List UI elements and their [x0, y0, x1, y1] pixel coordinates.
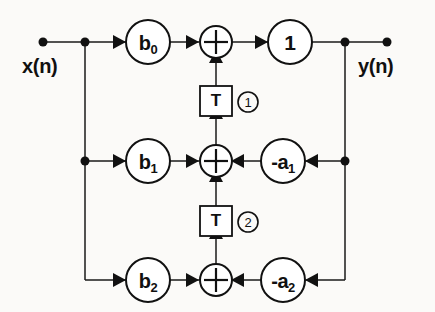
signal-flow-diagram: x(n) y(n) b0 b1 b2 -a1 -a2 1 T T 1 2 [0, 0, 435, 312]
output-junction-dot [341, 38, 350, 47]
arrow-into-b0 [113, 35, 126, 49]
coefficient-sub-b2: 2 [150, 280, 157, 295]
output-terminal-dot [383, 38, 392, 47]
delay-marker-label-2: 2 [244, 215, 251, 230]
coefficient-label-b2: b2 [139, 270, 157, 293]
coefficient-label-b0: b0 [139, 32, 157, 55]
arrow-into-b2 [113, 273, 126, 287]
adder-bottom[interactable] [200, 264, 232, 296]
input-junction-dot [81, 38, 90, 47]
coefficient-sub-b1: 1 [150, 161, 157, 176]
coefficient-label-a1: -a1 [271, 151, 295, 174]
delay-label-1: T [211, 91, 221, 111]
coefficient-sub-a2: 2 [288, 280, 295, 295]
arrow-into-adder-top [186, 35, 199, 49]
coefficient-base-b2: b [139, 270, 151, 292]
adder-top[interactable] [200, 26, 232, 58]
coefficient-base-a1: -a [271, 151, 288, 173]
output-gain-label: 1 [284, 31, 296, 55]
arrow-into-adder-bottom-left [186, 273, 199, 287]
arrow-into-adder-middle-left [186, 154, 199, 168]
coefficient-base-b1: b [139, 151, 151, 173]
coefficient-base-a2: -a [271, 270, 288, 292]
adder-middle[interactable] [200, 145, 232, 177]
diagram-canvas [0, 0, 435, 312]
coefficient-label-a2: -a2 [271, 270, 295, 293]
coefficient-label-b1: b1 [139, 151, 157, 174]
output-signal-label: y(n) [358, 55, 393, 78]
coefficient-sub-b0: 0 [150, 42, 157, 57]
delay-marker-label-1: 1 [244, 95, 251, 110]
arrow-into-a1 [305, 154, 318, 168]
input-signal-label: x(n) [22, 55, 57, 78]
input-terminal-dot [39, 38, 48, 47]
coefficient-sub-a1: 1 [288, 161, 295, 176]
input-branch-dot-middle [81, 157, 90, 166]
arrow-into-a2 [305, 273, 318, 287]
delay-label-2: T [211, 211, 221, 231]
coefficient-base-b0: b [139, 32, 151, 54]
arrow-into-b1 [113, 154, 126, 168]
arrow-into-gain [255, 35, 268, 49]
feedback-branch-dot-middle [341, 157, 350, 166]
